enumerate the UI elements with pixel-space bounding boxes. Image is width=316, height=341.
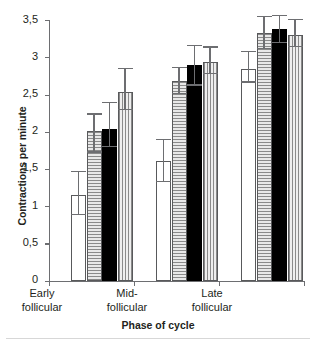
x-axis-line (49, 281, 305, 282)
y-tick-label-3: 3 (32, 50, 38, 62)
y-tick-label-2: 2 (32, 124, 38, 136)
y-tick-3-5: 3,5 (45, 20, 50, 21)
y-tick-label-1: 1 (32, 199, 38, 211)
bar-series-1-group-3 (241, 69, 256, 280)
x-tick-1 (134, 281, 135, 286)
bar-series-2-group-2 (172, 81, 187, 281)
y-tick-3: 3 (45, 57, 50, 58)
error-bar-stem (209, 48, 210, 74)
error-bar-stem (248, 52, 249, 83)
error-bar-cap-lower (156, 181, 171, 182)
error-bar-stem (178, 68, 179, 94)
x-tick-end (304, 281, 305, 286)
error-bar-cap-lower (272, 42, 287, 43)
y-tick-2: 2 (45, 132, 50, 133)
error-bar-cap-lower (172, 93, 187, 94)
error-bar-cap-lower (257, 48, 272, 49)
error-bar-cap-lower (203, 73, 218, 74)
error-bar-stem (124, 69, 125, 110)
y-tick-2-5: 2,5 (45, 95, 50, 96)
error-bar-cap-upper (156, 139, 171, 140)
error-bar-cap-lower (102, 146, 117, 147)
error-bar-cap-upper (118, 68, 133, 69)
bar-series-4-group-2 (203, 62, 218, 280)
y-tick-label-3-5: 3,5 (23, 13, 38, 25)
y-tick-label-0: 0 (32, 273, 38, 285)
bar-series-2-group-3 (257, 33, 272, 280)
plot-area: 0 0,5 1 1,5 2 2,5 3 3,5 (49, 20, 305, 282)
error-bar-cap-lower (71, 214, 86, 215)
error-bar-stem (93, 115, 94, 153)
bar-series-3-group-3 (272, 29, 287, 281)
error-bar-stem (194, 46, 195, 85)
y-tick-1: 1 (45, 206, 50, 207)
error-bar-cap-upper (71, 171, 86, 172)
error-bar-cap-upper (241, 51, 256, 52)
y-tick-label-0-5: 0,5 (23, 236, 38, 248)
error-bar-stem (294, 20, 295, 47)
error-bar-cap-upper (272, 15, 287, 16)
bar-series-4-group-3 (288, 35, 303, 281)
error-bar-cap-lower (87, 151, 102, 152)
bar-chart-figure: Contractions per minute 0 0,5 1 1,5 2 2,… (0, 0, 316, 341)
error-bar-cap-lower (187, 84, 202, 85)
y-tick-label-2-5: 2,5 (23, 87, 38, 99)
footer-divider (6, 338, 310, 339)
error-bar-cap-lower (288, 46, 303, 47)
error-bar-cap-upper (203, 46, 218, 47)
y-tick-0-5: 0,5 (45, 243, 50, 244)
y-tick-1-5: 1,5 (45, 169, 50, 170)
bar-series-4-group-1 (118, 92, 133, 281)
bar-series-3-group-1 (102, 129, 117, 281)
error-bar-cap-lower (118, 109, 133, 110)
error-bar-stem (78, 172, 79, 215)
bar-series-2-group-1 (87, 131, 102, 281)
x-label-late-follicular: Late follicular (157, 287, 267, 314)
x-label-late-line1: Late (157, 287, 267, 301)
bar-series-3-group-2 (187, 65, 202, 280)
error-bar-cap-upper (187, 45, 202, 46)
error-bar-cap-upper (172, 67, 187, 68)
error-bar-stem (109, 103, 110, 146)
error-bar-cap-upper (87, 113, 102, 114)
x-axis-title: Phase of cycle (0, 319, 316, 331)
error-bar-cap-lower (241, 81, 256, 82)
x-tick-2 (219, 281, 220, 286)
x-label-late-line2: follicular (157, 301, 267, 315)
error-bar-stem (163, 140, 164, 182)
error-bar-stem (263, 17, 264, 49)
error-bar-stem (279, 16, 280, 43)
error-bar-cap-upper (288, 19, 303, 20)
error-bar-cap-upper (102, 102, 117, 103)
y-tick-label-1-5: 1,5 (23, 161, 38, 173)
error-bar-cap-upper (257, 16, 272, 17)
x-tick-start (49, 281, 50, 286)
